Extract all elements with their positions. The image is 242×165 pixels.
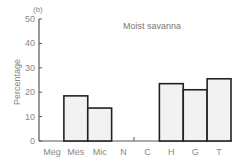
y-tick-label: 30 (25, 63, 35, 73)
x-tick-label: H (168, 147, 175, 157)
bar-mic (88, 108, 112, 141)
y-tick-label: 0 (30, 136, 35, 146)
chart: (b) Moist savanna Percentage 01020304050… (0, 0, 242, 165)
chart-title: Moist savanna (123, 21, 181, 31)
x-tick-label: N (120, 147, 127, 157)
y-tick-label: 20 (25, 87, 35, 97)
bar-g (183, 90, 207, 141)
x-tick-label: T (216, 147, 222, 157)
x-axis-labels: MegMesMicNCHGT (43, 147, 222, 157)
x-tick-label: Mic (93, 147, 107, 157)
bar-mes (64, 96, 88, 141)
y-axis-label: Percentage (12, 59, 22, 105)
panel-label: (b) (33, 5, 43, 14)
y-tick-label: 40 (25, 38, 35, 48)
bars (64, 79, 231, 141)
y-tick-label: 50 (25, 14, 35, 24)
x-tick-label: G (192, 147, 199, 157)
bar-t (207, 79, 231, 141)
x-tick-label: Mes (67, 147, 85, 157)
y-tick-label: 10 (25, 112, 35, 122)
x-tick-label: C (144, 147, 151, 157)
x-tick-label: Meg (43, 147, 61, 157)
bar-h (159, 84, 183, 141)
